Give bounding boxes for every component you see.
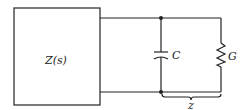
node-dot-bottom — [159, 90, 163, 94]
brace-label: z — [187, 99, 194, 110]
resistor-symbol — [217, 18, 225, 92]
capacitor-label: C — [172, 49, 181, 62]
resistor-label: G — [228, 50, 237, 63]
block-label: Z(s) — [44, 54, 67, 67]
circuit-diagram: Z(s) C G z — [0, 0, 251, 110]
capacitor-symbol — [154, 18, 168, 92]
node-dot-top — [159, 16, 163, 20]
